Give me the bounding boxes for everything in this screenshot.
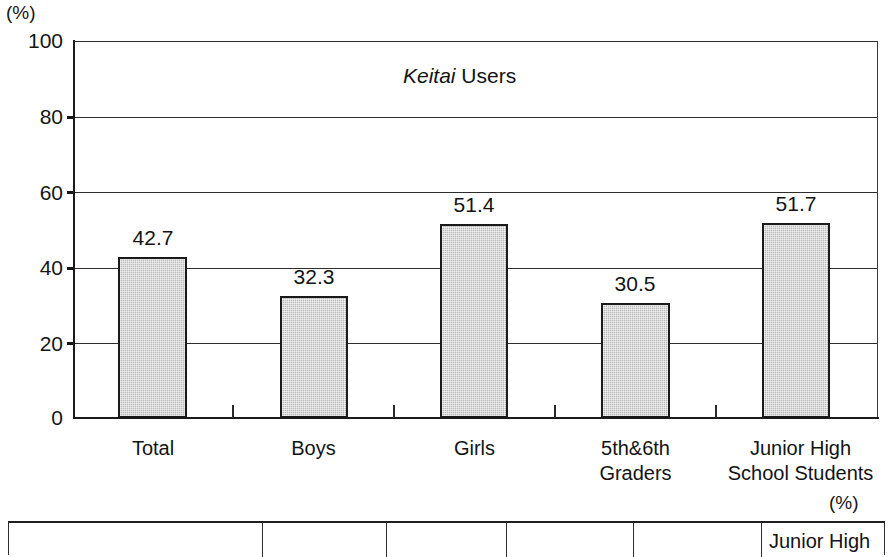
- gridline-80: [73, 117, 878, 118]
- x-tick-mark-3: [554, 405, 556, 418]
- table-column-divider-1: [262, 523, 263, 557]
- table-unit-label: (%): [829, 492, 859, 514]
- y-axis-line: [73, 40, 75, 419]
- category-label-5th6th-line1: 5th&6th: [555, 436, 716, 461]
- table-column-divider-2: [386, 523, 387, 557]
- gridline-100: [73, 41, 878, 42]
- bar-value-junior-high: 51.7: [745, 192, 847, 216]
- y-tick-label-100: 100: [5, 29, 63, 53]
- y-tick-label-0: 0: [5, 406, 63, 430]
- category-label-boys: Boys: [233, 436, 394, 461]
- chart-title-emphasis: Keitai: [403, 64, 456, 87]
- y-axis-unit-label: (%): [6, 2, 36, 24]
- y-tick-label-60: 60: [5, 181, 63, 205]
- table-header-junior-high: Junior High: [769, 529, 870, 553]
- x-tick-mark-2: [393, 405, 395, 418]
- table-column-divider-3: [506, 523, 507, 557]
- category-label-junior-high-line1: Junior High: [716, 436, 885, 461]
- category-label-girls: Girls: [394, 436, 555, 461]
- bar-value-girls: 51.4: [423, 193, 525, 217]
- category-label-5th6th-line2: Graders: [555, 461, 716, 486]
- chart-title: Keitai Users: [403, 64, 516, 88]
- bar-junior-high: [762, 223, 830, 418]
- data-table: Junior High: [8, 521, 885, 555]
- y-tick-label-80: 80: [5, 105, 63, 129]
- plot-right-border: [877, 41, 878, 419]
- bar-value-total: 42.7: [102, 226, 204, 250]
- chart-title-rest: Users: [456, 64, 517, 87]
- bar-boys: [280, 296, 348, 418]
- table-column-divider-5: [761, 523, 762, 557]
- y-tick-label-20: 20: [5, 332, 63, 356]
- category-label-junior-high-line2: School Students: [716, 461, 885, 486]
- x-tick-mark-4: [715, 405, 717, 418]
- bar-total: [118, 257, 187, 418]
- category-label-total: Total: [72, 436, 234, 461]
- y-tick-label-40: 40: [5, 256, 63, 280]
- bar-value-boys: 32.3: [263, 265, 365, 289]
- bar-5th6th-graders: [601, 303, 670, 418]
- x-tick-mark-1: [232, 405, 234, 418]
- table-column-divider-4: [633, 523, 634, 557]
- bar-value-5th6th-graders: 30.5: [584, 272, 686, 296]
- bar-girls: [440, 224, 508, 418]
